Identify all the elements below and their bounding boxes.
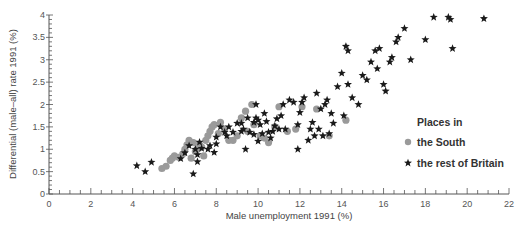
rest-point-star-icon [212,140,220,148]
rest-point-star-icon [141,167,149,175]
legend-label-rest: the rest of Britain [417,157,504,169]
rest-point-star-icon [315,125,323,133]
x-tick-label: 14 [337,199,347,209]
rest-point-star-icon [367,58,375,66]
y-axis-title: Differential (male–all) rate 1991 (%) [7,29,18,179]
x-tick-label: 6 [172,199,177,209]
y-tick-label: 2.5 [32,77,45,87]
rest-point-star-icon [327,109,335,117]
rest-point-star-icon [400,24,408,32]
rest-point-star-icon [210,148,218,156]
rest-point-star-icon [244,114,252,122]
south-point [298,103,305,110]
rest-point-star-icon [147,158,155,166]
rest-point-star-icon [449,44,457,52]
rest-point-star-icon [242,145,250,153]
y-tick-label: 0.5 [32,167,45,177]
rest-point-star-icon [329,119,337,127]
rest-point-star-icon [373,65,381,73]
x-tick-label: 18 [420,199,430,209]
rest-point-star-icon [319,132,327,140]
series-rest-points [133,13,488,177]
series-south-points [158,101,349,172]
x-tick-label: 0 [46,199,51,209]
rest-point-star-icon [344,80,352,88]
y-tick-label: 0 [40,189,45,199]
rest-point-star-icon [306,125,314,133]
rest-point-star-icon [133,162,141,170]
x-tick-label: 4 [130,199,135,209]
rest-point-star-icon [421,35,429,43]
rest-point-star-icon [407,56,415,64]
rest-point-star-icon [308,118,316,126]
south-point [242,108,249,115]
y-tick-label: 1.5 [32,122,45,132]
y-tick-label: 2 [40,100,45,110]
y-tick-label: 4 [40,10,45,20]
rest-point-star-icon [311,132,319,140]
south-point [162,163,169,170]
rest-point-star-icon [480,14,488,22]
rest-point-star-icon [354,100,362,108]
x-tick-label: 20 [462,199,472,209]
rest-point-star-icon [189,170,197,178]
scatter-chart: 00.511.522.533.54 0246810121416182022 Di… [0,0,519,236]
rest-point-star-icon [313,89,321,97]
legend-circle-icon [405,139,411,145]
x-axis: 0246810121416182022 [46,188,514,209]
x-tick-label: 8 [214,199,219,209]
rest-point-star-icon [304,136,312,144]
rest-point-star-icon [382,87,390,95]
rest-point-star-icon [338,69,346,77]
x-tick-label: 10 [253,199,263,209]
legend-title: Places in [417,116,463,128]
y-tick-label: 1 [40,144,45,154]
y-tick-label: 3 [40,55,45,65]
rest-point-star-icon [359,71,367,79]
x-tick-label: 12 [295,199,305,209]
x-tick-label: 16 [379,199,389,209]
rest-point-star-icon [348,94,356,102]
south-point [188,155,195,162]
x-axis-title: Male unemployment 1991 (%) [226,210,353,221]
rest-point-star-icon [380,80,388,88]
south-point [211,121,218,128]
rest-point-star-icon [294,145,302,153]
x-tick-label: 22 [504,199,514,209]
legend-star-icon [404,159,412,167]
rest-point-star-icon [260,109,268,117]
y-axis: 00.511.522.533.54 [32,10,53,199]
y-tick-label: 3.5 [32,32,45,42]
legend-label-south: the South [417,136,465,148]
legend: Places in the South the rest of Britain [404,116,504,169]
x-tick-label: 2 [88,199,93,209]
rest-point-star-icon [430,13,438,21]
rest-point-star-icon [334,82,342,90]
